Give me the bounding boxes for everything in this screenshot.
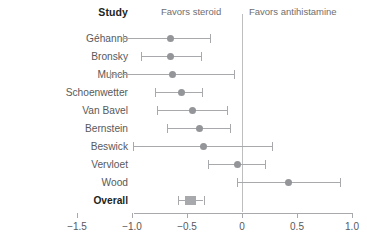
study-label: Van Bavel xyxy=(0,105,128,116)
plot-area: GéhannoBronskyMunchSchoenwetterVan Bavel… xyxy=(0,0,367,242)
study-row: Géhanno xyxy=(0,30,367,48)
axis-tick xyxy=(242,213,243,218)
ci-lower-cap xyxy=(155,88,156,97)
study-row: Bernstein xyxy=(0,120,367,138)
effect-estimate-marker xyxy=(285,179,292,186)
effect-estimate-marker xyxy=(200,143,207,150)
study-label: Munch xyxy=(0,69,128,80)
ci-lower-cap xyxy=(167,124,168,133)
axis-tick xyxy=(187,213,188,218)
x-axis-line xyxy=(134,213,352,214)
axis-tick xyxy=(132,213,133,218)
ci-upper-cap xyxy=(234,70,235,79)
ci-lower-cap xyxy=(237,178,238,187)
summary-marker xyxy=(185,196,196,205)
axis-tick-label: −1.5 xyxy=(67,221,87,232)
study-label: Bronsky xyxy=(0,51,128,62)
effect-estimate-marker xyxy=(167,35,174,42)
study-row: Schoenwetter xyxy=(0,84,367,102)
axis-tick-label: 1.0 xyxy=(345,221,359,232)
ci-lower-cap xyxy=(157,106,158,115)
study-label: Beswick xyxy=(0,141,128,152)
summary-row: Overall xyxy=(0,192,367,210)
study-label: Vervloet xyxy=(0,159,128,170)
ci-upper-cap xyxy=(210,34,211,43)
axis-tick xyxy=(352,213,353,218)
study-row: Bronsky xyxy=(0,48,367,66)
effect-estimate-marker xyxy=(196,125,203,132)
effect-estimate-marker xyxy=(234,161,241,168)
study-label: Wood xyxy=(0,177,128,188)
ci-upper-cap xyxy=(201,52,202,61)
ci-lower-cap xyxy=(141,52,142,61)
ci-lower-cap xyxy=(208,160,209,169)
axis-tick-label: 0 xyxy=(239,221,245,232)
study-label: Schoenwetter xyxy=(0,87,128,98)
ci-lower-cap xyxy=(110,70,111,79)
study-row: Vervloet xyxy=(0,156,367,174)
ci-upper-cap xyxy=(230,124,231,133)
effect-estimate-marker xyxy=(167,53,174,60)
effect-estimate-marker xyxy=(189,107,196,114)
forest-plot-figure: Study Favors steroid Favors antihistamin… xyxy=(0,0,367,242)
study-label: Géhanno xyxy=(0,33,128,44)
effect-estimate-marker xyxy=(178,89,185,96)
axis-tick-label: −0.5 xyxy=(177,221,197,232)
ci-upper-cap xyxy=(340,178,341,187)
ci-lower-cap xyxy=(178,196,179,205)
ci-lower-cap xyxy=(133,142,134,151)
study-row: Beswick xyxy=(0,138,367,156)
ci-upper-cap xyxy=(202,88,203,97)
ci-upper-cap xyxy=(204,196,205,205)
effect-estimate-marker xyxy=(169,71,176,78)
study-row: Munch xyxy=(0,66,367,84)
axis-tick-label: −1.0 xyxy=(122,221,142,232)
ci-upper-cap xyxy=(227,106,228,115)
axis-tick xyxy=(297,213,298,218)
study-label: Bernstein xyxy=(0,123,128,134)
axis-tick xyxy=(77,213,78,218)
study-row: Van Bavel xyxy=(0,102,367,120)
ci-upper-cap xyxy=(265,160,266,169)
ci-upper-cap xyxy=(272,142,273,151)
axis-tick-label: 0.5 xyxy=(290,221,304,232)
ci-lower-cap xyxy=(123,34,124,43)
study-row: Wood xyxy=(0,174,367,192)
study-label: Overall xyxy=(0,195,128,206)
